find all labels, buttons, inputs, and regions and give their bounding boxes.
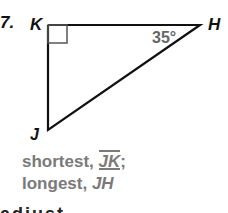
angle-label-h: 35° <box>152 29 176 47</box>
segment-underline <box>99 168 121 170</box>
answer-line-shortest: shortest, JK; <box>22 152 126 172</box>
semicolon: ; <box>120 152 126 171</box>
vertex-label-k: K <box>30 15 42 35</box>
segment-jh: JH <box>92 174 114 194</box>
triangle-outline <box>48 25 200 130</box>
segment-overline <box>99 150 121 152</box>
segment-jk: JK <box>99 152 121 172</box>
vertex-label-h: H <box>208 15 220 35</box>
cropped-heading-text: adjust <box>0 204 65 213</box>
cropped-text: adjust <box>0 204 65 213</box>
longest-label: longest, <box>22 174 92 193</box>
shortest-label: shortest, <box>22 152 99 171</box>
right-angle-marker <box>48 25 67 43</box>
answer-line-longest: longest, JH <box>22 174 114 194</box>
vertex-label-j: J <box>30 126 39 144</box>
